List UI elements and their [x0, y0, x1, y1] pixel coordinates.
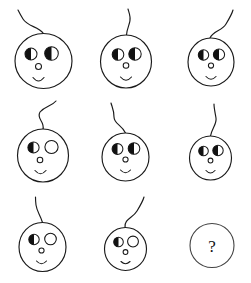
eye-left	[28, 142, 39, 153]
question-mark-label: ?	[208, 237, 216, 256]
head-outline	[15, 34, 72, 89]
cell-r1c1[interactable]	[15, 10, 72, 89]
cell-r2c3[interactable]	[190, 104, 232, 180]
stalk-s-left-stalk	[111, 103, 126, 133]
nose-outline	[36, 64, 42, 70]
stalk-straight-wavy-stalk	[36, 197, 43, 223]
eye-right	[213, 49, 224, 60]
eye-right	[128, 236, 139, 247]
eye-right	[45, 47, 59, 61]
stalk-hook-left-stalk	[18, 10, 44, 34]
eye-right-outline	[45, 233, 57, 245]
eye-right	[129, 48, 141, 60]
cell-r2c1[interactable]	[18, 101, 69, 182]
cell-r3c2[interactable]	[105, 197, 147, 271]
eye-left	[198, 50, 208, 60]
eye-left	[114, 237, 124, 247]
head-outline	[18, 129, 69, 182]
eye-left	[25, 48, 37, 60]
eye-left	[112, 144, 123, 155]
cell-r3c3-answer[interactable]: ?	[190, 224, 234, 268]
nose-outline	[123, 250, 128, 255]
stalk-wavy-up-stalk	[127, 9, 131, 35]
stalk-hook-right-tall-stalk	[125, 197, 144, 228]
puzzle-figure: ?	[0, 0, 251, 283]
eye-left	[112, 49, 124, 61]
eye-right	[45, 140, 58, 153]
cell-r1c2[interactable]	[101, 9, 152, 88]
eye-right-outline	[45, 140, 58, 153]
cell-r2c2[interactable]	[102, 103, 149, 181]
eye-left	[29, 234, 39, 244]
eye-right	[45, 233, 57, 245]
nose-outline	[123, 157, 128, 162]
nose-outline	[208, 63, 213, 68]
nose-outline	[39, 248, 44, 253]
eye-right-outline	[128, 236, 139, 247]
eye-left	[199, 146, 209, 156]
nose-outline	[37, 157, 43, 163]
eye-right	[213, 145, 223, 155]
stalk-s-right-stalk	[39, 101, 56, 130]
stalk-hook-right-stalk	[210, 10, 233, 38]
nose-outline	[123, 63, 129, 69]
nose-outline	[208, 158, 213, 163]
eye-right	[128, 143, 140, 155]
cell-r1c3[interactable]	[188, 10, 234, 86]
cell-r3c1[interactable]	[19, 197, 66, 272]
stalk-near-straight-stalk	[211, 104, 217, 136]
matrix-puzzle-canvas: ?	[0, 0, 251, 283]
